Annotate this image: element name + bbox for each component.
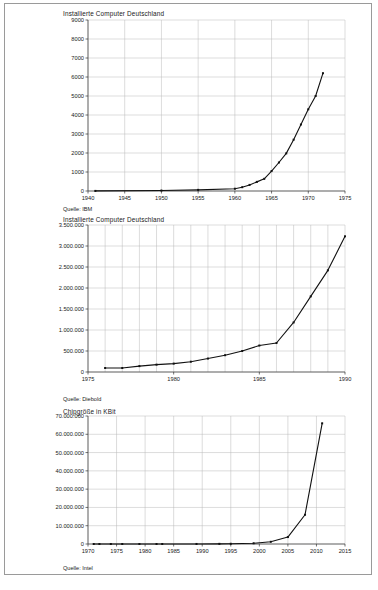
data-point-marker (138, 365, 140, 367)
x-tick-label: 1960 (229, 195, 242, 201)
x-tick-label: 1945 (118, 195, 131, 201)
y-tick-label: 2.500.000 (59, 264, 84, 270)
data-point-marker (256, 181, 258, 183)
y-tick-label: 0 (81, 541, 84, 547)
x-tick-label: 1950 (155, 195, 168, 201)
data-point-marker (241, 186, 243, 188)
chart-content: 0100020003000400050006000700080009000194… (71, 17, 351, 201)
y-tick-label: 10.000.000 (56, 523, 84, 529)
data-point-marker (275, 342, 277, 344)
y-tick-label: 3.500.000 (59, 222, 84, 228)
y-tick-label: 5000 (71, 93, 84, 99)
x-tick-label: 2005 (282, 548, 295, 554)
figure-chipgroesse-kbit: Chipgröße in KBit 010.000.00020.000.0003… (5, 404, 373, 574)
x-tick-label: 1980 (167, 376, 180, 382)
plot-area-3: 010.000.00020.000.00030.000.00040.000.00… (5, 404, 373, 567)
figure-installierte-computer-ibm: Installierte Computer Deutschland 010002… (5, 6, 373, 214)
y-tick-label: 40.000.000 (56, 468, 84, 474)
data-point-marker (196, 543, 198, 545)
x-tick-label: 1990 (339, 376, 352, 382)
data-point-marker (161, 543, 163, 545)
chart-content: 0500.0001.000.0001.500.0002.000.0002.500… (59, 222, 352, 382)
x-tick-label: 2010 (310, 548, 323, 554)
chart-svg-2: 0500.0001.000.0001.500.0002.000.0002.500… (5, 212, 373, 397)
x-tick-label: 1940 (82, 195, 95, 201)
y-tick-label: 9000 (71, 17, 84, 23)
data-point-marker (138, 543, 140, 545)
y-tick-label: 7000 (71, 55, 84, 61)
data-point-marker (160, 190, 162, 192)
y-tick-label: 1000 (71, 169, 84, 175)
y-tick-label: 0 (81, 369, 84, 375)
y-tick-label: 30.000.000 (56, 486, 84, 492)
x-tick-label: 1980 (139, 548, 152, 554)
y-tick-label: 500.000 (63, 348, 84, 354)
data-point-marker (156, 543, 158, 545)
chart-source-2: Quelle: Diebold (63, 396, 101, 402)
data-point-marker (293, 139, 295, 141)
data-point-marker (263, 178, 265, 180)
data-point-marker (315, 95, 317, 97)
data-series-line (95, 73, 323, 191)
data-point-marker (300, 124, 302, 126)
data-point-marker (287, 536, 289, 538)
data-point-marker (258, 345, 260, 347)
x-tick-label: 2015 (339, 548, 352, 554)
x-tick-label: 1975 (339, 195, 352, 201)
data-point-marker (278, 162, 280, 164)
data-point-marker (190, 361, 192, 363)
y-tick-label: 1.000.000 (59, 327, 84, 333)
data-point-marker (197, 189, 199, 191)
x-tick-label: 1985 (253, 376, 266, 382)
chart-source-3: Quelle: Intel (63, 565, 93, 571)
y-tick-label: 70.000.000 (56, 413, 84, 419)
y-tick-label: 3.000.000 (59, 243, 84, 249)
data-point-marker (234, 188, 236, 190)
x-tick-label: 1955 (192, 195, 205, 201)
chart-content: 010.000.00020.000.00030.000.00040.000.00… (56, 413, 352, 554)
x-tick-label: 2000 (253, 548, 266, 554)
y-tick-label: 8000 (71, 36, 84, 42)
data-point-marker (344, 235, 346, 237)
x-tick-label: 1985 (167, 548, 180, 554)
x-tick-label: 1970 (302, 195, 315, 201)
data-point-marker (98, 543, 100, 545)
data-point-marker (327, 269, 329, 271)
data-point-marker (224, 354, 226, 356)
y-tick-label: 4000 (71, 112, 84, 118)
data-point-marker (271, 170, 273, 172)
y-tick-label: 0 (81, 188, 84, 194)
data-point-marker (321, 422, 323, 424)
data-point-marker (293, 321, 295, 323)
data-point-marker (241, 350, 243, 352)
chart-svg-1: 0100020003000400050006000700080009000194… (5, 6, 373, 206)
data-point-marker (104, 367, 106, 369)
y-tick-label: 6000 (71, 74, 84, 80)
data-point-marker (304, 514, 306, 516)
page-frame: Installierte Computer Deutschland 010002… (4, 3, 372, 575)
data-point-marker (110, 543, 112, 545)
y-tick-label: 3000 (71, 131, 84, 137)
plot-area-1: 0100020003000400050006000700080009000194… (5, 6, 373, 206)
x-tick-label: 1965 (265, 195, 278, 201)
data-point-marker (249, 184, 251, 186)
data-point-marker (253, 542, 255, 544)
data-point-marker (121, 367, 123, 369)
data-point-marker (121, 543, 123, 545)
data-point-marker (207, 358, 209, 360)
data-point-marker (230, 543, 232, 545)
y-tick-label: 50.000.000 (56, 450, 84, 456)
chart-svg-3: 010.000.00020.000.00030.000.00040.000.00… (5, 404, 373, 567)
data-point-marker (94, 190, 96, 192)
x-tick-label: 1995 (224, 548, 237, 554)
x-tick-label: 1975 (82, 376, 95, 382)
y-tick-label: 1.500.000 (59, 306, 84, 312)
x-tick-label: 1975 (110, 548, 123, 554)
data-point-marker (270, 541, 272, 543)
y-tick-label: 2000 (71, 150, 84, 156)
data-point-marker (322, 72, 324, 74)
data-point-marker (307, 108, 309, 110)
x-tick-label: 1990 (196, 548, 209, 554)
data-point-marker (218, 543, 220, 545)
figure-installierte-computer-diebold: Installierte Computer Deutschland 0500.0… (5, 212, 373, 404)
